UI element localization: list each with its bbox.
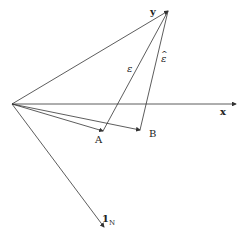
residual-epsilon	[103, 11, 168, 131]
label-ones-subscript: N	[109, 219, 115, 227]
label-y: y	[149, 6, 157, 17]
label-B: B	[149, 128, 156, 139]
vector-y	[12, 11, 168, 104]
label-ones: 1	[102, 213, 109, 224]
vector-B	[12, 104, 140, 130]
vector-A	[12, 104, 103, 131]
label-A: A	[94, 134, 103, 145]
projection-diagram: y x ε ε ^ A B 1 N	[0, 0, 240, 240]
residual-epsilon-hat	[140, 11, 168, 130]
label-epsilon-hat-accent: ^	[161, 49, 168, 58]
label-x: x	[220, 106, 227, 117]
vector-ones	[12, 104, 104, 227]
label-epsilon: ε	[127, 63, 132, 74]
